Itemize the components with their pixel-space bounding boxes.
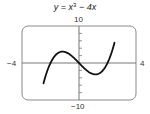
plot-area <box>0 0 150 114</box>
